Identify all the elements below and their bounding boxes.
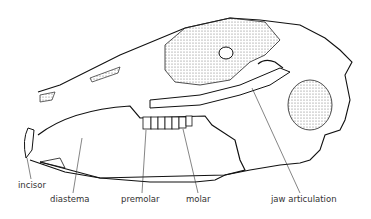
label-diastema: diastema — [50, 194, 89, 204]
label-incisor: incisor — [18, 180, 46, 190]
label-premolar: premolar — [121, 194, 159, 204]
skull-diagram: incisor diastema premolar molar jaw arti… — [0, 0, 371, 219]
label-jaw-articulation: jaw articulation — [271, 194, 337, 204]
skull-illustration — [0, 0, 371, 219]
label-molar: molar — [186, 194, 211, 204]
